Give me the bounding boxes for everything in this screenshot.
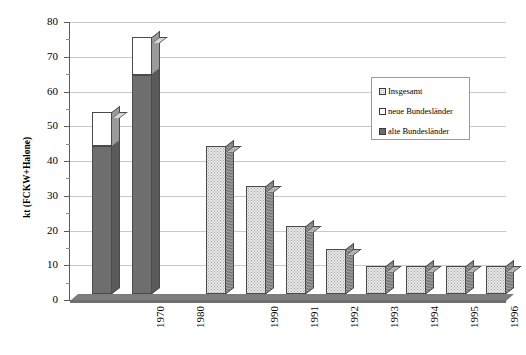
legend-item-insgesamt[interactable]: Insgesamt xyxy=(379,85,422,97)
chart-floor-front xyxy=(70,300,506,303)
x-axis-label-1991: 1991 xyxy=(308,306,320,352)
bar-1997[interactable] xyxy=(486,0,514,294)
bar-1995-front xyxy=(406,266,426,294)
bar-1992-front xyxy=(286,226,306,294)
bar-1991-front xyxy=(246,186,266,294)
x-axis-label-1970: 1970 xyxy=(154,306,166,352)
bar-1970-alte-side xyxy=(112,140,120,294)
bar-1970-neue-front xyxy=(92,112,112,147)
bar-1980-alte-front xyxy=(132,75,152,294)
y-tick-50 xyxy=(64,126,70,127)
y-tick-minor-45 xyxy=(66,144,70,145)
x-axis-label-1994: 1994 xyxy=(428,306,440,352)
chart-legend: Insgesamt neue Bundesländer alte Bundesl… xyxy=(371,77,470,140)
y-axis-title-text: kt (FCKW+Halone) xyxy=(22,98,32,218)
y-tick-minor-75 xyxy=(66,39,70,40)
legend-label-neue-bundeslaender: neue Bundesländer xyxy=(388,107,453,116)
x-axis-label-1990: 1990 xyxy=(268,306,280,352)
bar-1994-front xyxy=(366,266,386,294)
y-tick-20 xyxy=(64,231,70,232)
y-tick-label-20: 20 xyxy=(32,225,58,236)
y-tick-80 xyxy=(64,22,70,23)
y-tick-60 xyxy=(64,92,70,93)
bar-1970-alte-front xyxy=(92,146,112,294)
legend-label-insgesamt: Insgesamt xyxy=(388,87,422,96)
bar-1995[interactable] xyxy=(406,0,434,294)
bar-1990[interactable] xyxy=(206,0,234,294)
bar-chart: kt (FCKW+Halone) 80 70 60 50 40 30 20 10… xyxy=(0,0,526,355)
y-tick-label-70: 70 xyxy=(32,51,58,62)
x-axis-label-1980: 1980 xyxy=(194,306,206,352)
y-tick-label-80: 80 xyxy=(32,16,58,27)
legend-swatch-insgesamt-icon xyxy=(379,88,386,95)
y-tick-minor-5 xyxy=(66,283,70,284)
bar-1980-alte-side xyxy=(152,69,160,294)
y-tick-label-30: 30 xyxy=(32,190,58,201)
bar-1990-front xyxy=(206,146,226,294)
x-axis-label-1996: 1996 xyxy=(508,306,520,352)
bar-1990-side xyxy=(226,140,234,294)
bar-1994[interactable] xyxy=(366,0,394,294)
y-tick-10 xyxy=(64,265,70,266)
y-tick-label-0: 0 xyxy=(32,294,58,305)
x-axis-label-1995: 1995 xyxy=(468,306,480,352)
legend-label-alte-bundeslaender: alte Bundesländer xyxy=(388,127,449,136)
x-axis-label-1993: 1993 xyxy=(388,306,400,352)
bar-1980[interactable] xyxy=(132,0,160,294)
bar-1993-front xyxy=(326,249,346,294)
bar-1997-front xyxy=(486,266,506,294)
x-axis-label-1992: 1992 xyxy=(348,306,360,352)
y-tick-minor-35 xyxy=(66,178,70,179)
bar-1980-neue-front xyxy=(132,37,152,75)
legend-swatch-alte-bundeslaender-icon xyxy=(379,128,386,135)
bar-1992[interactable] xyxy=(286,0,314,294)
y-tick-minor-25 xyxy=(66,213,70,214)
bar-1993[interactable] xyxy=(326,0,354,294)
y-tick-30 xyxy=(64,196,70,197)
bar-1991-side xyxy=(266,180,274,294)
legend-item-alte-bundeslaender[interactable]: alte Bundesländer xyxy=(379,125,449,137)
bar-1996[interactable] xyxy=(446,0,474,294)
y-tick-40 xyxy=(64,161,70,162)
y-tick-minor-55 xyxy=(66,109,70,110)
legend-item-neue-bundeslaender[interactable]: neue Bundesländer xyxy=(379,105,453,117)
legend-swatch-neue-bundeslaender-icon xyxy=(379,108,386,115)
bar-1996-front xyxy=(446,266,466,294)
y-tick-minor-15 xyxy=(66,248,70,249)
bar-1991[interactable] xyxy=(246,0,274,294)
y-tick-70 xyxy=(64,57,70,58)
y-tick-label-40: 40 xyxy=(32,155,58,166)
y-tick-label-10: 10 xyxy=(32,259,58,270)
y-tick-label-60: 60 xyxy=(32,86,58,97)
bar-1970[interactable] xyxy=(92,0,120,294)
y-tick-label-50: 50 xyxy=(32,120,58,131)
y-tick-minor-65 xyxy=(66,74,70,75)
